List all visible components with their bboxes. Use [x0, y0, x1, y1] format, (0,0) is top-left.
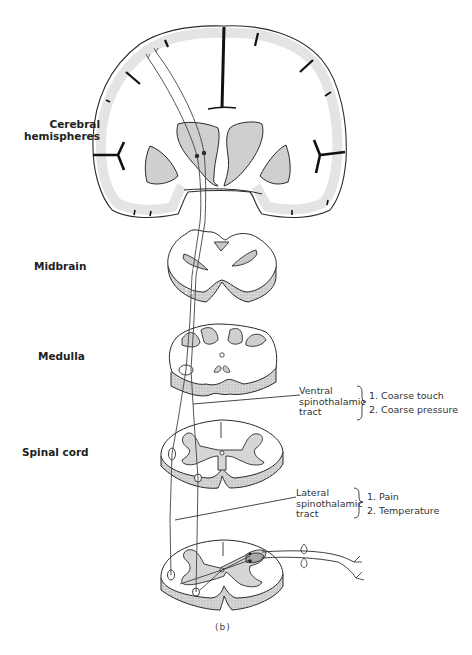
label-cerebral-hemispheres: Cerebral hemispheres [14, 118, 100, 142]
label-medulla: Medulla [38, 350, 85, 362]
label-spinal-cord: Spinal cord [22, 446, 89, 458]
lateral-tract-leader [175, 497, 296, 520]
spinal-cord-lower-section [161, 540, 364, 610]
diagram-artwork [0, 0, 472, 655]
tract-name-line1: Lateral [296, 488, 363, 499]
spinothalamic-pathway-diagram: Cerebral hemispheres Midbrain Medulla Sp… [0, 0, 472, 655]
cerebral-hemispheres-section [93, 26, 346, 218]
figure-caption: (b) [215, 622, 231, 632]
ventral-tract-functions: 1. Coarse touch 2. Coarse pressure [369, 389, 458, 417]
tract-name-line1: Ventral [299, 386, 366, 397]
lateral-spinothalamic-tract-label: Lateral spinothalamic tract [296, 488, 363, 520]
ventral-tract-leader [193, 395, 300, 404]
lateral-tract-functions: 1. Pain 2. Temperature [367, 490, 439, 518]
tract-name-line3: tract [296, 509, 363, 520]
ventral-spinothalamic-tract-label: Ventral spinothalamic tract [299, 386, 366, 418]
function-item: 2. Temperature [367, 504, 439, 518]
medulla-section [169, 324, 276, 396]
midbrain-section [168, 230, 277, 302]
label-cerebral-line2: hemispheres [14, 130, 100, 142]
function-item: 1. Pain [367, 490, 439, 504]
label-cerebral-line1: Cerebral [14, 118, 100, 130]
label-midbrain: Midbrain [34, 260, 86, 272]
spinal-cord-upper-section [161, 420, 283, 488]
function-item: 2. Coarse pressure [369, 403, 458, 417]
function-item: 1. Coarse touch [369, 389, 458, 403]
tract-name-line3: tract [299, 407, 366, 418]
